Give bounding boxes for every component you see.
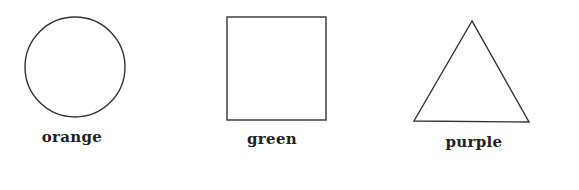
square-label: green — [247, 130, 297, 148]
shapes-canvas — [0, 0, 579, 190]
square-shape — [227, 17, 326, 120]
triangle-label: purple — [446, 133, 503, 151]
triangle-shape — [414, 21, 529, 122]
circle-shape — [25, 17, 125, 117]
circle-label: orange — [42, 128, 102, 146]
